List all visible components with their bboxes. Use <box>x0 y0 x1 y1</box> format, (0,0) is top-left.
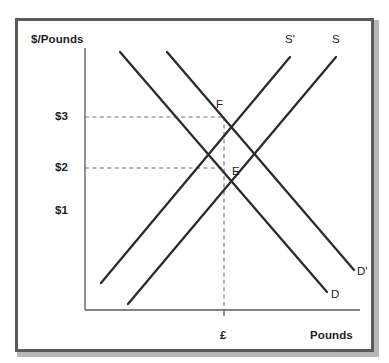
demand-curve-d-prime <box>167 52 354 270</box>
curve-label-d-prime: D' <box>357 266 368 278</box>
demand-curve-d <box>120 52 327 292</box>
y-tick-label-3: $3 <box>55 111 68 123</box>
exchange-rate-supply-demand-figure: $/Pounds Pounds $3 $2 $1 £ S' S D' D F E <box>0 0 389 363</box>
x-axis-title: Pounds <box>310 330 353 342</box>
y-axis-title: $/Pounds <box>31 34 84 46</box>
x-tick-label-pound: £ <box>220 330 226 342</box>
chart-canvas <box>0 0 389 363</box>
point-label-f: F <box>216 99 223 111</box>
curve-label-d: D <box>331 289 339 301</box>
y-tick-label-1: $1 <box>55 205 68 217</box>
point-label-e: E <box>232 166 240 178</box>
curve-label-s: S <box>332 34 340 46</box>
supply-curve-s-prime <box>101 57 290 283</box>
y-tick-label-2: $2 <box>55 162 68 174</box>
curve-label-s-prime: S' <box>285 34 295 46</box>
